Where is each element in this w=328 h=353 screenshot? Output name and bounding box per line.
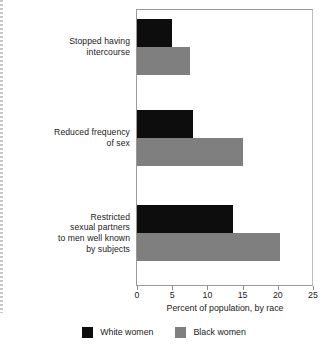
category-label-line: Reduced frequency xyxy=(2,127,130,138)
category-label-line: by subjects xyxy=(2,244,130,255)
category-label: Stopped havingintercourse xyxy=(2,36,130,57)
x-axis-tick-labels: 0510152025 xyxy=(0,290,328,302)
bar-black-women xyxy=(137,47,190,75)
bar-group xyxy=(137,205,313,261)
bar-group xyxy=(137,110,313,166)
legend-label-white-women: White women xyxy=(100,327,153,338)
bar-row xyxy=(137,205,313,233)
x-axis-tick-label: 20 xyxy=(273,290,283,301)
bar-group xyxy=(137,19,313,75)
bar-row xyxy=(137,47,313,75)
x-axis-tick-label: 0 xyxy=(135,290,140,301)
legend-swatch-icon-black-women xyxy=(175,327,186,338)
bar-row xyxy=(137,110,313,138)
chart-legend: White women Black women xyxy=(0,327,328,338)
category-label: Reduced frequencyof sex xyxy=(2,127,130,148)
x-axis-tick-label: 25 xyxy=(308,290,318,301)
category-label-line: Restricted xyxy=(2,212,130,223)
x-axis-tick-label: 15 xyxy=(238,290,248,301)
clipped-caption-line xyxy=(4,346,304,353)
bar-black-women xyxy=(137,233,280,261)
grouped-bar-chart-figure: Stopped havingintercourseReduced frequen… xyxy=(0,0,328,353)
bars-layer xyxy=(137,9,313,286)
legend-label-black-women: Black women xyxy=(193,327,245,338)
category-label-line: of sex xyxy=(2,138,130,149)
x-axis-title: Percent of population, by race xyxy=(137,303,313,314)
bar-row xyxy=(137,233,313,261)
bar-white-women xyxy=(137,205,233,233)
x-axis-tick-label: 10 xyxy=(202,290,212,301)
category-label-line: Stopped having xyxy=(2,36,130,47)
bar-row xyxy=(137,19,313,47)
bar-white-women xyxy=(137,110,193,138)
legend-swatch-icon-white-women xyxy=(82,327,93,338)
category-label-line: sexual partners xyxy=(2,222,130,233)
category-label-line: intercourse xyxy=(2,47,130,58)
category-label: Restrictedsexual partnersto men well kno… xyxy=(2,212,130,254)
legend-entry-black-women: Black women xyxy=(175,327,245,338)
category-label-line: to men well known xyxy=(2,233,130,244)
bar-white-women xyxy=(137,19,172,47)
x-axis-tick-label: 5 xyxy=(170,290,175,301)
bar-black-women xyxy=(137,138,243,166)
bar-row xyxy=(137,138,313,166)
legend-entry-white-women: White women xyxy=(82,327,153,338)
